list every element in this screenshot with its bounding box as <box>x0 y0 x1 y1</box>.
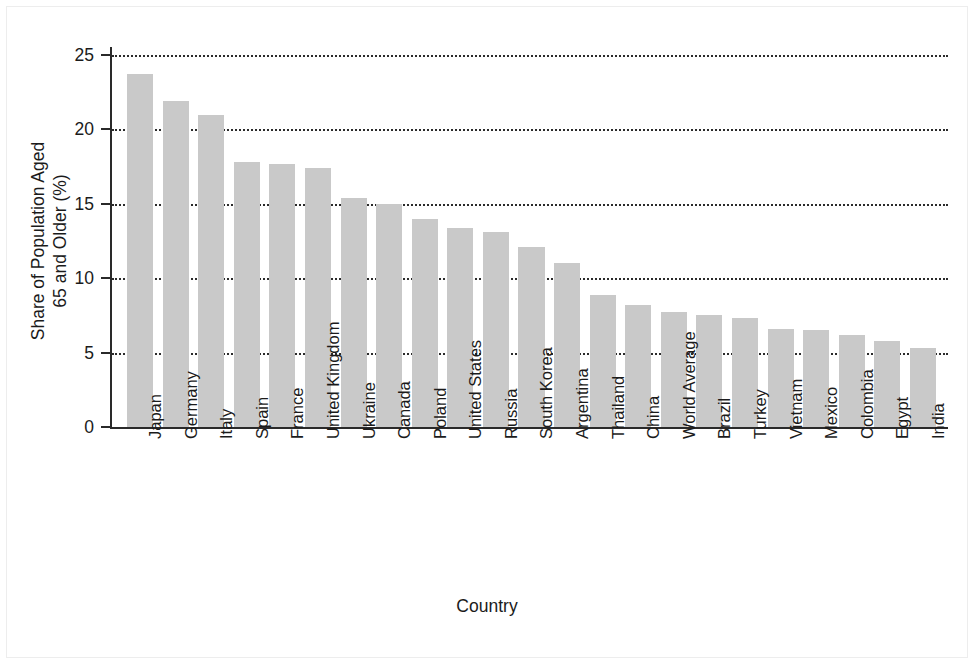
y-axis-line <box>110 47 112 427</box>
y-axis-tick <box>101 352 112 354</box>
x-axis-tick-label: Thailand <box>609 376 628 439</box>
y-axis-tick-label: 5 <box>84 342 94 363</box>
gridline <box>112 129 948 131</box>
x-axis-tick-label: South Korea <box>537 347 556 439</box>
x-axis-tick-label: Colombia <box>858 369 877 439</box>
x-axis-tick-label: Egypt <box>893 397 912 439</box>
x-axis-tick-label: Japan <box>146 394 165 439</box>
y-axis-title-line-1: Share of Population Aged <box>27 142 49 341</box>
y-axis-tick-label: 0 <box>84 417 94 438</box>
figure: Share of Population Aged 65 and Older (%… <box>0 0 974 664</box>
x-axis-tick-label: Germany <box>182 371 201 439</box>
x-axis-tick-label: Russia <box>502 389 521 439</box>
y-axis-tick <box>101 128 112 130</box>
x-axis-tick-label: United States <box>466 340 485 439</box>
x-axis-tick-label: Brazil <box>715 398 734 439</box>
x-axis-tick-label: Canada <box>395 381 414 439</box>
x-axis-tick-label: Argentina <box>573 368 592 439</box>
x-axis-tick-label: Italy <box>217 409 236 439</box>
y-axis-tick <box>101 277 112 279</box>
x-axis-tick-label: France <box>288 388 307 439</box>
y-axis-tick <box>101 203 112 205</box>
x-axis-title: Country <box>0 596 974 617</box>
x-axis-tick-label: Spain <box>253 397 272 439</box>
y-axis-tick-label: 20 <box>75 119 94 140</box>
y-axis-tick-label: 10 <box>75 268 94 289</box>
x-axis-tick-label: Mexico <box>822 387 841 439</box>
y-axis-tick <box>101 54 112 56</box>
gridline <box>112 55 948 57</box>
bar[interactable] <box>234 162 260 427</box>
x-axis-tick-label: India <box>929 403 948 439</box>
bar[interactable] <box>127 74 153 427</box>
y-axis-title: Share of Population Aged 65 and Older (%… <box>18 55 80 427</box>
x-axis-tick-label: World Average <box>680 331 699 439</box>
y-axis-tick-label: 25 <box>75 45 94 66</box>
y-axis-title-line-2: 65 and Older (%) <box>49 174 71 307</box>
x-axis-tick-label: Poland <box>431 388 450 439</box>
x-axis-tick-label: Ukraine <box>360 382 379 439</box>
x-axis-tick-label: Turkey <box>751 389 770 439</box>
x-axis-tick-label: Vietnam <box>787 379 806 439</box>
x-axis-tick-label: United Kingdom <box>324 322 343 439</box>
x-axis-tick-label: China <box>644 396 663 439</box>
y-axis-tick-label: 15 <box>75 193 94 214</box>
bar[interactable] <box>198 115 224 427</box>
y-axis-tick <box>101 426 112 428</box>
plot-area: 0510152025 JapanGermanyItalySpainFranceU… <box>110 55 948 427</box>
